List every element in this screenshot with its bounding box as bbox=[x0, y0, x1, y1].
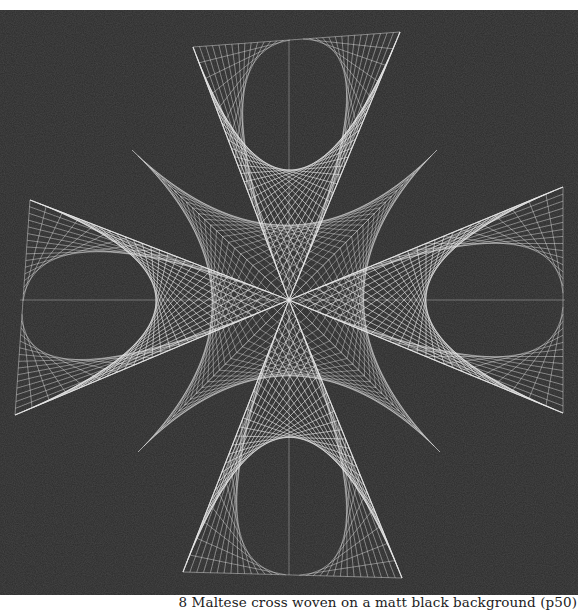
maltese-cross-string-art bbox=[0, 10, 578, 595]
maltese-cross-photo bbox=[0, 10, 578, 595]
figure-caption: 8 Maltese cross woven on a matt black ba… bbox=[179, 594, 577, 610]
